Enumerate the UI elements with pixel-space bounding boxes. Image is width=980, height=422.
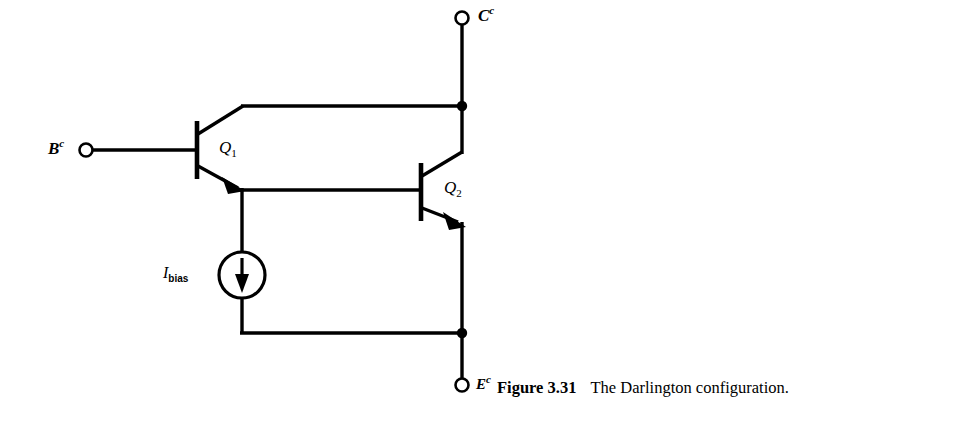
terminal-c-label: Cc: [478, 7, 494, 24]
figure-darlington-configuration: Bc Cc Ec Q1 Q2 Ibias Figure 3.31The Darl…: [0, 0, 980, 422]
q2-collector-diagonal: [422, 152, 462, 176]
terminal-b-circle: [80, 144, 93, 157]
figure-caption-text: The Darlington configuration.: [590, 378, 788, 397]
figure-caption-label: Figure 3.31: [497, 378, 576, 397]
transistor-q1-label: Q1: [219, 139, 237, 156]
terminal-b-label: Bc: [48, 140, 64, 157]
terminal-e-label: Ec: [476, 377, 491, 392]
transistor-q2-label: Q2: [444, 179, 462, 196]
circuit-schematic: [0, 0, 980, 422]
q1-collector-diagonal: [198, 106, 243, 134]
current-source-label: Ibias: [163, 265, 188, 281]
terminal-e-circle: [456, 379, 469, 392]
junction-dot-collector-node: [457, 101, 467, 111]
junction-dot-emitter-node: [457, 328, 467, 338]
terminal-c-circle: [456, 12, 469, 25]
figure-caption: Figure 3.31The Darlington configuration.: [497, 378, 789, 398]
